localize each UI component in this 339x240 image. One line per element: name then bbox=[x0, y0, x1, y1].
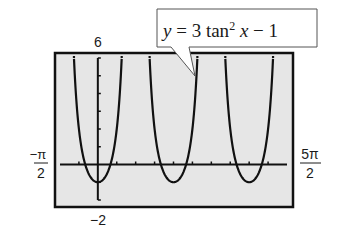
ymin-label: −2 bbox=[90, 212, 106, 228]
equation-label: y = 3 tan2 x − 1 bbox=[161, 19, 278, 41]
xmax-label-denominator: 2 bbox=[306, 165, 314, 181]
calculator-screen bbox=[55, 53, 293, 207]
ymax-label: 6 bbox=[94, 34, 102, 50]
xmax-label-numerator: 5π bbox=[301, 146, 319, 162]
xmax-label: 5π 2 bbox=[300, 146, 321, 181]
xmin-label-numerator: −π bbox=[30, 147, 47, 162]
xmin-label: −π 2 bbox=[30, 147, 48, 181]
graph-figure: 6 −2 −π 2 5π 2 y = 3 tan2 x − 1 bbox=[0, 0, 339, 240]
xmin-label-denominator: 2 bbox=[37, 165, 45, 181]
